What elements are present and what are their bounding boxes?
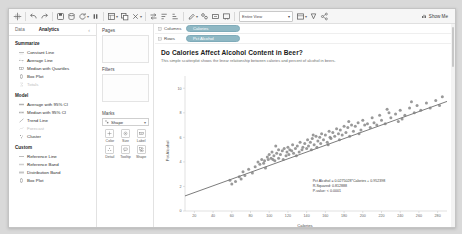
show-labels-icon[interactable] bbox=[210, 11, 221, 22]
duplicate-sheet-icon[interactable] bbox=[119, 11, 130, 22]
label-icon bbox=[137, 129, 146, 138]
forecast-icon bbox=[19, 126, 24, 131]
analytics-item-trend-line[interactable]: Trend Line bbox=[9, 116, 96, 124]
group-model: Model Average with 95% CI Median with 95… bbox=[9, 93, 96, 140]
filters-card-title: Filters bbox=[98, 63, 153, 74]
group-summarize: Summarize Constant Line Average Line Med… bbox=[9, 41, 96, 88]
show-me-icon bbox=[421, 13, 427, 20]
size-icon bbox=[121, 129, 130, 138]
svg-text:280: 280 bbox=[435, 214, 441, 218]
analytics-item-average-with-95-ci[interactable]: Average with 95% CI bbox=[9, 100, 96, 108]
analytics-item-distribution-band[interactable]: Distribution Band bbox=[9, 168, 96, 176]
refresh-caret-icon[interactable]: ▾ bbox=[87, 14, 89, 19]
median-quartiles-icon bbox=[19, 66, 24, 71]
median-ci-icon bbox=[19, 110, 24, 115]
new-worksheet-caret-icon[interactable]: ▾ bbox=[116, 14, 118, 19]
svg-text:60: 60 bbox=[230, 214, 234, 218]
tableau-window: ▾ ▾ ▾ bbox=[8, 8, 456, 228]
reference-band-icon bbox=[19, 162, 24, 167]
pause-icon[interactable] bbox=[90, 11, 101, 22]
vertical-scrollbar[interactable] bbox=[451, 24, 455, 227]
svg-text:8: 8 bbox=[179, 111, 181, 115]
tooltip-icon bbox=[121, 145, 130, 154]
presentation-mode-icon[interactable] bbox=[221, 11, 232, 22]
swap-rows-cols-icon[interactable] bbox=[148, 11, 159, 22]
trend-p-value-label: P-value: < 0.0001 bbox=[313, 189, 341, 194]
sort-descending-icon[interactable] bbox=[170, 11, 181, 22]
x-axis-title: Calories bbox=[155, 223, 455, 228]
filters-shelf[interactable] bbox=[102, 74, 149, 102]
shape-mark-icon bbox=[105, 120, 109, 124]
analytics-item-label: Distribution Band bbox=[27, 170, 60, 175]
analytics-item-label: Totals bbox=[27, 82, 38, 87]
analytics-item-average-line[interactable]: Average Line bbox=[9, 56, 96, 64]
scrollbar-thumb[interactable] bbox=[452, 27, 454, 67]
analytics-item-median-with-95-ci[interactable]: Median with 95% CI bbox=[9, 108, 96, 116]
marks-button-label: Shape bbox=[136, 155, 146, 159]
analytics-item-label: Trend Line bbox=[27, 118, 48, 123]
svg-text:0: 0 bbox=[179, 209, 181, 213]
svg-text:20: 20 bbox=[192, 214, 196, 218]
clear-caret-icon[interactable]: ▾ bbox=[140, 14, 142, 19]
analytics-item-median-with-quartiles[interactable]: Median with Quartiles bbox=[9, 64, 96, 72]
analytics-item-box-plot[interactable]: Box Plot bbox=[9, 72, 96, 80]
analytics-item-label: Forecast bbox=[27, 126, 44, 131]
marks-button-tooltip[interactable]: Tooltip bbox=[118, 145, 134, 159]
marks-button-shape[interactable]: Shape bbox=[133, 145, 149, 159]
pane-collapse-icon[interactable]: ‹ bbox=[88, 27, 90, 33]
show-me-button[interactable]: Show Me bbox=[421, 13, 452, 20]
sort-ascending-icon[interactable] bbox=[159, 11, 170, 22]
analytics-item-label: Box Plot bbox=[27, 178, 43, 183]
new-data-source-icon[interactable] bbox=[66, 11, 77, 22]
pill-calories[interactable]: Calories bbox=[186, 25, 240, 32]
highlight-caret-icon[interactable]: ▾ bbox=[196, 14, 198, 19]
analytics-item-label: Cluster bbox=[27, 134, 41, 139]
analytics-item-reference-line[interactable]: Reference Line bbox=[9, 152, 96, 160]
share-icon[interactable] bbox=[319, 11, 330, 22]
marks-card: Marks Shape ▾ Color Size bbox=[98, 107, 153, 159]
marks-type-dropdown[interactable]: Shape ▾ bbox=[102, 118, 149, 126]
analytics-item-forecast[interactable]: Forecast bbox=[9, 124, 96, 132]
box-plot-icon bbox=[19, 178, 24, 183]
save-icon[interactable] bbox=[55, 11, 66, 22]
group-custom: Custom Reference Line Reference Band Dis… bbox=[9, 145, 96, 184]
analytics-item-label: Median with Quartiles bbox=[27, 66, 69, 71]
svg-text:260: 260 bbox=[416, 214, 422, 218]
analytics-item-reference-band[interactable]: Reference Band bbox=[9, 160, 96, 168]
tab-analytics[interactable]: Analytics bbox=[39, 27, 59, 32]
marks-buttons-grid: Color Size Label Detail bbox=[102, 129, 149, 159]
columns-shelf-row: Columns Calories bbox=[155, 24, 455, 34]
marks-button-label[interactable]: Label bbox=[133, 129, 149, 143]
svg-text:120: 120 bbox=[285, 214, 291, 218]
marks-button-label: Tooltip bbox=[120, 155, 130, 159]
marks-button-label: Label bbox=[137, 139, 146, 143]
fix-axes-caret-icon[interactable]: ▾ bbox=[305, 14, 307, 19]
columns-shelf-text: Columns bbox=[164, 26, 181, 31]
marks-type-value: Shape bbox=[111, 120, 123, 125]
analytics-item-cluster[interactable]: Cluster bbox=[9, 132, 96, 140]
marks-button-label: Color bbox=[106, 139, 115, 143]
analytics-item-constant-line[interactable]: Constant Line bbox=[9, 48, 96, 56]
analytics-item-label: Average Line bbox=[27, 58, 53, 63]
svg-text:100: 100 bbox=[266, 214, 272, 218]
reference-line-icon bbox=[19, 154, 24, 159]
fit-selector[interactable]: Entire View ▾ bbox=[239, 11, 293, 22]
analytics-item-totals[interactable]: Totals bbox=[9, 80, 96, 88]
scatter-plot[interactable]: 2040608010012014016018020022024026028002… bbox=[155, 72, 455, 228]
redo-icon[interactable] bbox=[39, 11, 50, 22]
marks-button-size[interactable]: Size bbox=[118, 129, 134, 143]
group-title-model: Model bbox=[9, 93, 96, 100]
pill-pct-alcohol[interactable]: Pct Alcohol bbox=[186, 35, 240, 42]
analytics-item-box-plot-custom[interactable]: Box Plot bbox=[9, 176, 96, 184]
marks-button-detail[interactable]: Detail bbox=[102, 145, 118, 159]
tableau-logo-icon[interactable] bbox=[12, 11, 23, 22]
marks-button-color[interactable]: Color bbox=[102, 129, 118, 143]
pages-shelf[interactable] bbox=[102, 35, 149, 63]
cards-column: Pages Filters Marks Shape ▾ Color bbox=[98, 24, 154, 227]
tab-data[interactable]: Data bbox=[15, 27, 25, 32]
plot-svg: 2040608010012014016018020022024026028002… bbox=[155, 72, 455, 228]
group-icon[interactable] bbox=[199, 11, 210, 22]
undo-icon[interactable] bbox=[28, 11, 39, 22]
distribution-band-icon bbox=[19, 170, 24, 175]
format-icon[interactable] bbox=[308, 11, 319, 22]
